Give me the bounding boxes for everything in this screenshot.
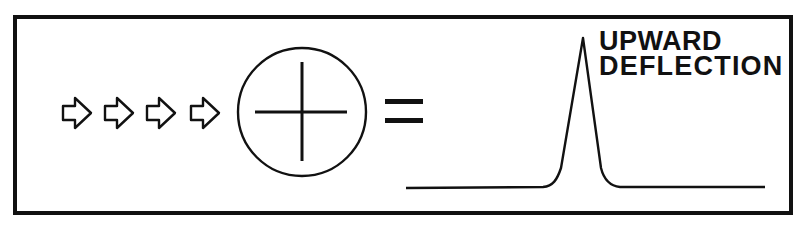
equals-sign	[385, 99, 423, 123]
arrow-right-icon	[105, 98, 133, 128]
arrow-right-icon	[63, 98, 91, 128]
arrow-right-icon	[147, 98, 175, 128]
label-deflection: DEFLECTION	[599, 54, 784, 79]
circled-plus-icon	[238, 48, 366, 176]
arrow-right-icon	[191, 98, 219, 128]
